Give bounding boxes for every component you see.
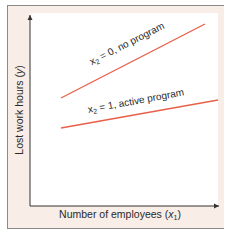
y-axis-label: Lost work hours (y) [13,65,25,154]
x-axis-label: Number of employees (x1) [0,208,226,221]
chart-svg [0,0,226,234]
